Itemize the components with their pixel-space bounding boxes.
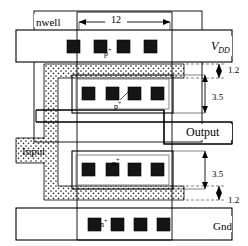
contact-square: [128, 87, 141, 100]
contact-square: [151, 87, 164, 100]
cmos-inverter-layout-figure: nwell 12 VDD 1.2 3.5 Output Input 3.5 1.…: [0, 0, 248, 246]
pplus-mid-leader: [120, 91, 129, 100]
contact-square: [157, 218, 170, 231]
dimension-3p5-ndiff-label: 3.5: [212, 170, 223, 179]
pplus-mid-label: p+: [114, 100, 121, 111]
contact-square: [134, 218, 147, 231]
contact-row-pdiff: [82, 87, 164, 100]
contact-row-ndiff: [82, 163, 164, 176]
contact-square: [106, 87, 119, 100]
dimension-pdiff-3p5: [173, 75, 208, 113]
dimension-1p2-top-label: 1.2: [228, 66, 239, 75]
layout-drawing: [0, 0, 248, 246]
vdd-subscript: DD: [218, 46, 230, 55]
contact-square: [111, 218, 124, 231]
nplus-mid-label: n+: [112, 157, 119, 168]
contact-square: [128, 163, 141, 176]
nwell-label: nwell: [36, 17, 60, 28]
contact-square: [67, 40, 80, 53]
dimension-width-12: [79, 14, 170, 30]
dimension-1p2-bottom-label: 1.2: [228, 196, 239, 205]
pplus-mid-sup: +: [118, 100, 121, 106]
contact-square: [151, 163, 164, 176]
dimension-12-label: 12: [111, 15, 121, 25]
nplus-mid-sup: +: [116, 157, 119, 163]
nplus-bot-label: n+: [100, 218, 107, 229]
vdd-label: VDD: [211, 40, 230, 55]
contact-square: [82, 87, 95, 100]
input-label: Input: [22, 146, 45, 157]
contact-square: [144, 40, 157, 53]
dimension-ndiff-3p5: [173, 151, 208, 189]
gnd-label: Gnd: [213, 221, 232, 232]
dimension-3p5-pdiff-label: 3.5: [212, 93, 223, 102]
contact-square: [82, 163, 95, 176]
output-label: Output: [186, 126, 219, 138]
pplus-top-label: p+: [104, 47, 111, 58]
polysilicon-gate-region: [16, 64, 184, 200]
contact-square: [117, 40, 130, 53]
nplus-bot-sup: +: [104, 218, 107, 224]
pplus-top-sup: +: [108, 47, 111, 53]
